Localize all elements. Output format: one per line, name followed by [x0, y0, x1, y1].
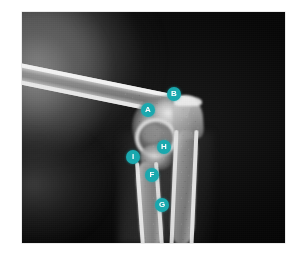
marker-h[interactable]: H: [157, 140, 171, 154]
marker-i[interactable]: I: [126, 150, 140, 164]
marker-f[interactable]: F: [145, 168, 159, 182]
marker-g[interactable]: G: [155, 198, 169, 212]
marker-b[interactable]: B: [167, 87, 181, 101]
trabecular-texture: [122, 92, 222, 243]
elbow-radiograph: [22, 12, 285, 243]
marker-a[interactable]: A: [141, 103, 155, 117]
page-root: ABHIFG: [0, 0, 301, 262]
